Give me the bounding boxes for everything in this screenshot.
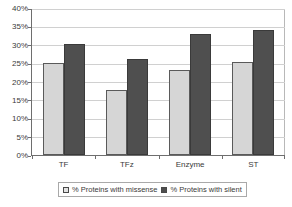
y-axis-tick-label: 15%: [2, 97, 28, 105]
y-axis-tick-label: 20%: [2, 79, 28, 87]
legend-entry: % Proteins with missense: [63, 186, 157, 194]
bar: [127, 59, 148, 155]
x-axis-category-label: ST: [222, 160, 285, 169]
y-axis-tick-label: 10%: [2, 115, 28, 123]
bar: [43, 63, 64, 155]
x-axis-tick: [95, 155, 96, 159]
bar: [232, 62, 253, 155]
x-axis-category-label: TFz: [95, 160, 158, 169]
x-axis-tick: [32, 155, 33, 159]
bar-group: [95, 9, 158, 155]
plot-area-wrapper: [31, 9, 285, 156]
chart-legend: % Proteins with missense% Proteins with …: [58, 182, 247, 197]
y-axis-tick-label: 40%: [2, 5, 28, 13]
legend-label: % Proteins with silent: [170, 186, 241, 194]
y-axis-tick-label: 25%: [2, 60, 28, 68]
bar: [190, 34, 211, 155]
y-axis-tick-label: 35%: [2, 23, 28, 31]
legend-swatch-icon: [63, 187, 69, 193]
legend-entry: % Proteins with silent: [161, 186, 241, 194]
bar-group: [32, 9, 95, 155]
legend-label: % Proteins with missense: [72, 186, 157, 194]
bar: [64, 44, 85, 155]
bar: [106, 90, 127, 155]
legend-swatch-icon: [161, 187, 167, 193]
x-axis-category-label: Enzyme: [159, 160, 222, 169]
y-axis-labels: 0%5%10%15%20%25%30%35%40%: [0, 9, 28, 156]
x-axis-tick: [284, 155, 285, 159]
bar: [169, 70, 190, 155]
bar-chart: 0%5%10%15%20%25%30%35%40% TFTFzEnzymeST …: [0, 0, 292, 207]
bar-group: [222, 9, 285, 155]
y-axis-tick-label: 5%: [2, 134, 28, 142]
bar-groups: [32, 9, 285, 155]
bar: [253, 30, 274, 155]
y-axis-tick-label: 30%: [2, 42, 28, 50]
y-axis-tick-label: 0%: [2, 152, 28, 160]
bar-group: [159, 9, 222, 155]
x-axis-tick: [222, 155, 223, 159]
x-axis-category-label: TF: [32, 160, 95, 169]
x-axis-tick: [159, 155, 160, 159]
x-axis-labels: TFTFzEnzymeST: [32, 160, 285, 169]
